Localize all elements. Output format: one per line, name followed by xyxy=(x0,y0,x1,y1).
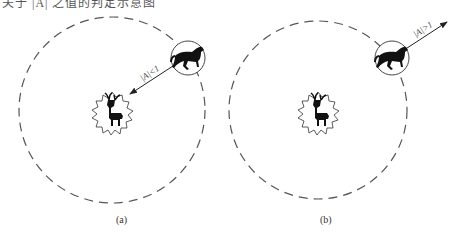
prey-starburst-a xyxy=(92,92,133,135)
panel-a xyxy=(19,17,205,203)
prey-starburst-b xyxy=(298,92,339,135)
caption-a: (a) xyxy=(116,214,127,225)
predator-a xyxy=(171,41,205,75)
caption-b: (b) xyxy=(320,214,332,225)
panel-b xyxy=(229,21,447,199)
diagram-canvas xyxy=(0,0,460,236)
predator-b xyxy=(375,41,409,75)
